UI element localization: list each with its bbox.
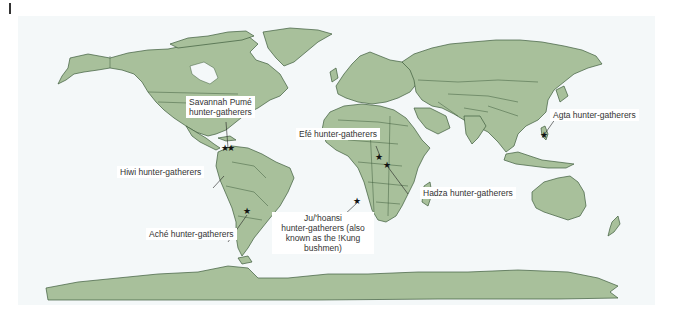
antarctica xyxy=(46,266,618,300)
marker-ache: ★ xyxy=(243,206,251,216)
australia xyxy=(532,176,586,220)
label-savannah-pume: Savannah Pumé hunter-gatherers xyxy=(186,96,255,118)
marker-savannah-pume-2: ★ xyxy=(227,143,235,153)
marker-juhoansi: ★ xyxy=(353,196,361,206)
label-efe: Efé hunter-gatherers xyxy=(296,128,380,140)
label-hadza: Hadza hunter-gatherers xyxy=(420,187,516,199)
world-map: ★ ★ ★ ★ ★ ★ ★ Savannah Pumé hunter-gathe… xyxy=(18,16,655,305)
marker-hadza: ★ xyxy=(383,160,391,170)
marker-agta: ★ xyxy=(540,130,548,140)
india xyxy=(464,116,486,144)
label-ache: Aché hunter-gatherers xyxy=(146,228,237,240)
world-map-svg: ★ ★ ★ ★ ★ ★ ★ xyxy=(18,16,655,305)
north-america xyxy=(58,35,288,136)
arabia xyxy=(414,108,450,134)
asia xyxy=(402,40,602,152)
label-agta: Agta hunter-gatherers xyxy=(550,109,639,121)
label-juhoansi: Ju/'hoansi hunter-gatherers (also known … xyxy=(272,212,374,254)
southeast-asia-islands xyxy=(504,152,574,168)
marker-efe: ★ xyxy=(375,152,383,162)
corner-mark xyxy=(9,3,11,14)
label-hiwi: Hiwi hunter-gatherers xyxy=(117,166,204,178)
greenland xyxy=(263,28,332,66)
new-zealand xyxy=(608,216,620,236)
